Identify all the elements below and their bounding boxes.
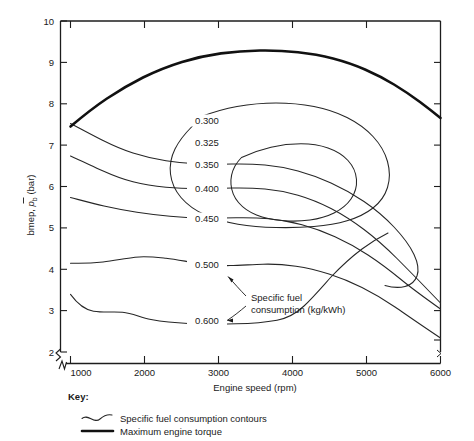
annotation-line-2: consumption (kg/kWh): [251, 304, 346, 315]
x-tick-label: 5000: [356, 367, 377, 378]
sfc-contour-chart: 10 9 8 7 6 5 4 3 2 1000 2000 3000 4000 5…: [0, 0, 474, 441]
legend-label-contours: Specific fuel consumption contours: [120, 413, 267, 424]
contour-label-0400: 0.400: [195, 183, 219, 194]
legend: Key: Specific fuel consumption contours …: [68, 391, 267, 437]
y-tick-label: 5: [49, 222, 54, 233]
contour-labels: 0.300 0.325 0.350 0.400 0.450 0.500 0.60…: [187, 115, 227, 327]
annotation-arrowhead-lower: [227, 319, 233, 323]
y-tick-label: 4: [49, 264, 54, 275]
y-tick-labels: 10 9 8 7 6 5 4 3 2: [43, 16, 54, 358]
x-axis-break-symbol: [59, 361, 67, 369]
engine-performance-map-figure: 10 9 8 7 6 5 4 3 2 1000 2000 3000 4000 5…: [0, 0, 474, 441]
y-axis-title-prefix: bmep,: [25, 206, 36, 235]
x-tick-label: 1000: [71, 367, 92, 378]
contour-label-0325: 0.325: [195, 137, 219, 148]
x-tick-label: 3000: [208, 367, 229, 378]
max-torque-curve: [71, 50, 441, 126]
y-axis-title-units: (bar): [25, 175, 36, 198]
contour-curve-0300: [231, 144, 357, 221]
y-tick-label: 2: [49, 347, 54, 358]
y-tick-label: 6: [49, 181, 54, 192]
legend-label-torque: Maximum engine torque: [120, 426, 222, 437]
contour-label-0500: 0.500: [195, 259, 219, 270]
plot-frame: [56, 21, 441, 369]
x-tick-labels: 1000 2000 3000 4000 5000 6000: [71, 367, 452, 378]
contour-label-0350: 0.350: [195, 159, 219, 170]
legend-swatch-contour: [82, 415, 112, 421]
y-axis-title: bmep, pb (bar): [24, 175, 38, 236]
y-tick-label: 9: [49, 57, 54, 68]
annotation-line-1: Specific fuel: [251, 292, 302, 303]
annotation-arrow-to-0600: [227, 306, 246, 321]
x-tick-label: 6000: [430, 367, 451, 378]
y-axis-break-symbol: [56, 349, 61, 361]
y-tick-label: 3: [49, 305, 54, 316]
y-axis-ticks: [61, 21, 68, 352]
x-tick-label: 4000: [282, 367, 303, 378]
y-tick-label: 8: [49, 98, 54, 109]
svg-text:bmep, pb (bar): bmep, pb (bar): [25, 175, 38, 236]
contour-label-0300: 0.300: [195, 115, 219, 126]
x-axis-ticks: [71, 356, 441, 364]
right-axis-ticks: [434, 62, 441, 340]
contour-label-0450: 0.450: [195, 213, 219, 224]
contour-label-0600: 0.600: [195, 315, 219, 326]
x-axis-title: Engine speed (rpm): [213, 382, 296, 393]
x-tick-label: 2000: [134, 367, 155, 378]
y-tick-label: 10: [43, 16, 54, 27]
y-tick-label: 7: [49, 140, 54, 151]
legend-title: Key:: [68, 391, 89, 402]
sfc-annotation: Specific fuel consumption (kg/kWh): [227, 277, 346, 323]
contour-curve-0350: [71, 124, 419, 288]
contour-curve-0400: [71, 156, 441, 303]
top-axis-ticks: [71, 21, 367, 28]
